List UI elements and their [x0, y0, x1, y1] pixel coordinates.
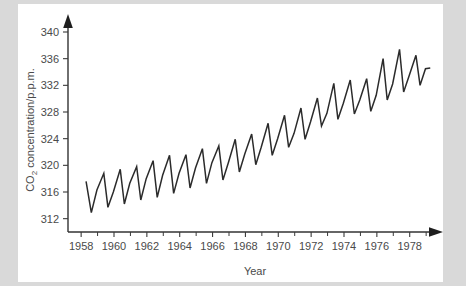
- x-axis-right-arrow-icon: [429, 227, 443, 237]
- x-tick-label: 1978: [397, 240, 421, 252]
- x-tick-label: 1960: [102, 240, 126, 252]
- y-axis-title: CO2 concentration/p.p.m.: [24, 68, 39, 192]
- x-tick-label: 1970: [266, 240, 290, 252]
- x-axis-title: Year: [244, 265, 267, 277]
- x-tick-label: 1958: [69, 240, 93, 252]
- y-axis-title-main: CO: [24, 175, 36, 192]
- data-series-group: [86, 49, 430, 212]
- y-tick-label: 324: [41, 133, 59, 145]
- axis-lines: [63, 14, 443, 237]
- x-axis-ticks: 1958196019621964196619681970197219741976…: [69, 232, 426, 252]
- svg-text:CO2 concentration/p.p.m.: CO2 concentration/p.p.m.: [24, 68, 39, 192]
- y-axis-title-rest: concentration/p.p.m.: [24, 68, 36, 171]
- x-tick-label: 1974: [332, 240, 356, 252]
- y-tick-label: 332: [41, 79, 59, 91]
- y-tick-label: 336: [41, 53, 59, 65]
- x-tick-label: 1972: [299, 240, 323, 252]
- x-tick-label: 1962: [135, 240, 159, 252]
- y-tick-label: 320: [41, 159, 59, 171]
- x-tick-label: 1976: [365, 240, 389, 252]
- y-axis-up-arrow-icon: [63, 14, 73, 28]
- y-tick-label: 312: [41, 213, 59, 225]
- x-tick-label: 1964: [167, 240, 191, 252]
- y-tick-label: 340: [41, 26, 59, 38]
- y-tick-label: 328: [41, 106, 59, 118]
- figure-card: 312316320324328332336340 195819601962196…: [18, 4, 443, 282]
- co2-concentration-line: [86, 49, 430, 212]
- figure-root: 312316320324328332336340 195819601962196…: [0, 0, 466, 286]
- co2-keeling-curve-chart: 312316320324328332336340 195819601962196…: [18, 4, 443, 282]
- y-tick-label: 316: [41, 186, 59, 198]
- x-tick-label: 1968: [233, 240, 257, 252]
- x-tick-label: 1966: [200, 240, 224, 252]
- y-axis-ticks: 312316320324328332336340: [41, 26, 68, 225]
